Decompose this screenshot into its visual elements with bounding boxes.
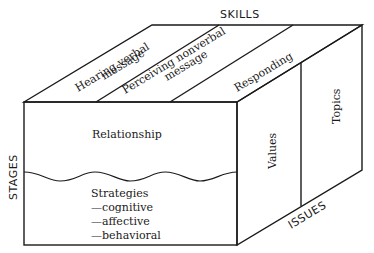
strategies-title: Strategies — [91, 187, 149, 200]
strategy-behavioral: —behavioral — [91, 229, 161, 242]
wavy-divider — [24, 172, 237, 181]
axis-label-stages: STAGES — [7, 154, 20, 200]
strategy-affective: —affective — [91, 215, 150, 228]
issue-topics: Topics — [330, 88, 343, 124]
strategy-cognitive: —cognitive — [91, 201, 153, 214]
stage-relationship: Relationship — [92, 128, 162, 141]
issue-values: Values — [266, 132, 279, 170]
axis-label-skills: SKILLS — [220, 8, 260, 21]
diagram-canvas: SKILLS STAGES ISSUES Hearing verbal mess… — [0, 0, 374, 253]
